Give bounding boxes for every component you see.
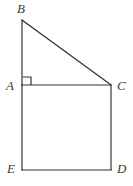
vertex-label-d: D: [117, 162, 126, 175]
vertex-label-c: C: [117, 79, 126, 92]
right-angle-marker-icon: [23, 77, 31, 85]
geometry-figure: B A C D E: [0, 0, 133, 186]
vertex-label-b: B: [17, 2, 25, 15]
figure-canvas: [0, 0, 133, 186]
vertex-label-a: A: [6, 79, 14, 92]
segment-bc: [22, 20, 111, 85]
vertex-label-e: E: [7, 162, 15, 175]
